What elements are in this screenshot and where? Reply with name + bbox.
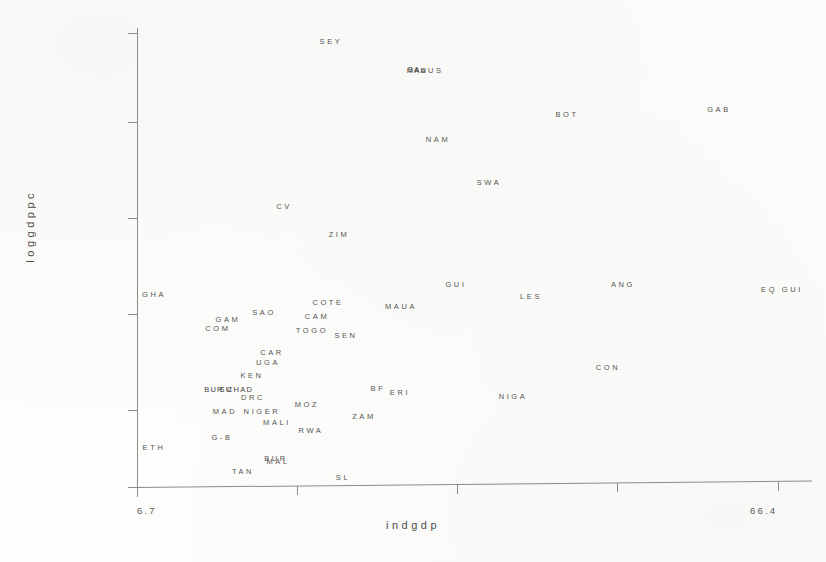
data-point-label: DRC	[241, 394, 265, 402]
data-point-label: ETH	[143, 444, 166, 452]
data-point-label: RWA	[299, 427, 324, 435]
scatter-plot-figure: 9.26861 6.12687 6.7 66.4 loggdppc indgdp…	[0, 0, 826, 562]
x-axis-tick-2	[457, 485, 458, 494]
x-axis-min-tick-label: 6.7	[137, 505, 157, 516]
y-axis-tick-3	[128, 314, 137, 315]
data-point-label: SWA	[477, 179, 502, 187]
x-axis-max-tick-label: 66.4	[750, 505, 777, 516]
data-point-label: ANG	[611, 281, 635, 289]
y-axis-tick-0	[128, 33, 137, 34]
data-point-label: NAM	[426, 136, 450, 144]
data-point-label: ERI	[390, 389, 410, 397]
data-point-label: TAN	[232, 468, 254, 476]
data-point-label: ZIM	[329, 231, 350, 239]
y-axis-tick-1	[128, 122, 137, 123]
data-point-label: MAUA	[385, 303, 417, 311]
data-point-label: SEY	[320, 38, 343, 46]
data-point-label: SEN	[334, 332, 357, 340]
y-axis-line	[137, 28, 138, 488]
data-point-label: G-B	[211, 434, 232, 442]
data-point-label: NIGER	[244, 408, 281, 416]
data-point-label: EQ GUI	[761, 286, 803, 294]
data-point-label: AUS	[420, 67, 443, 75]
data-point-label: ZAM	[352, 413, 376, 421]
data-point-label: BOT	[555, 111, 578, 119]
data-point-label: SAO	[252, 309, 276, 317]
data-point-label: GUI	[445, 281, 466, 289]
data-point-label: COM	[205, 325, 230, 333]
data-point-label: UGA	[256, 359, 280, 367]
data-point-label: MAL	[266, 458, 289, 466]
data-point-label: MOZ	[295, 401, 319, 409]
x-axis-title: indgdp	[0, 519, 826, 531]
data-point-label: CAR	[260, 349, 284, 357]
x-axis-tick-3	[617, 483, 618, 492]
data-point-label: SL	[336, 474, 350, 482]
data-point-label: CAM	[305, 313, 329, 321]
data-point-label: GAM	[216, 316, 241, 324]
data-point-label: KEN	[240, 372, 263, 380]
x-axis-tick-4	[778, 482, 779, 491]
data-point-label: GHA	[142, 291, 166, 299]
y-axis-title: loggdppc	[24, 190, 36, 263]
data-point-label: CV	[276, 203, 292, 211]
data-point-label: TOGO	[296, 327, 328, 335]
data-point-label: BF	[371, 385, 386, 393]
x-axis-line	[137, 481, 812, 488]
y-axis-tick-4	[128, 410, 137, 411]
x-axis-tick-0	[137, 488, 138, 497]
data-point-label: GAB	[707, 106, 731, 114]
x-axis-tick-1	[297, 486, 298, 495]
data-point-label: MAD	[213, 408, 237, 416]
data-point-label: CON	[596, 364, 620, 372]
data-point-label: LES	[520, 293, 542, 301]
data-point-label: COTE	[312, 299, 343, 307]
data-point-label: MALI	[263, 419, 291, 427]
y-axis-tick-5	[128, 487, 137, 488]
data-point-label: NIGA	[499, 393, 528, 401]
y-axis-tick-2	[128, 218, 137, 219]
plot-area: SEYSAMAUAUSBOTGABNAMSWACVZIMGHAGUILESANG…	[137, 28, 812, 488]
